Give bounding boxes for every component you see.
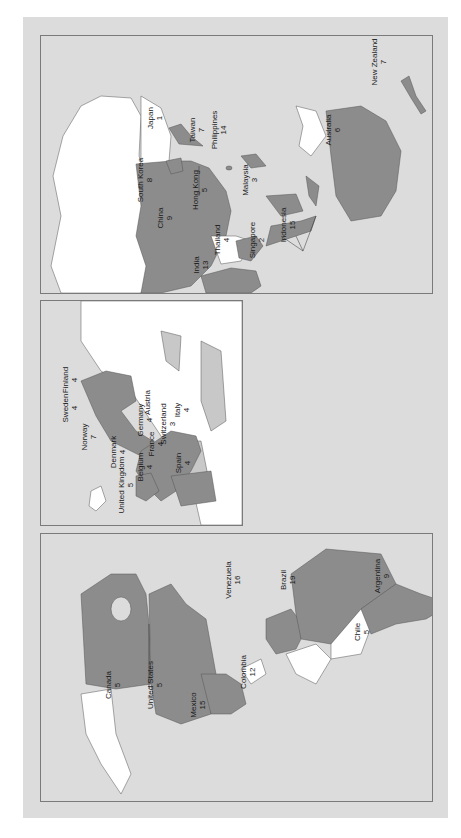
country-name: New Zealand [369,38,378,85]
country-label-canada: Canada5 [104,671,122,699]
country-name: Switzerland [158,403,167,444]
country-name: Venezuela [223,561,232,598]
country-count: 12 [248,655,257,689]
country-label-singapore: Singapore2 [248,222,266,258]
country-name: Canada [104,671,113,699]
country-label-taiwan: Taiwan7 [188,118,206,143]
country-label-brazil: Brazil19 [279,570,297,590]
country-label-united-kingdom: United Kingdom5 [117,457,135,514]
country-count: 15 [197,692,206,717]
country-name: Spain [174,453,183,473]
country-count: 1 [155,107,164,129]
country-count: 4 [70,367,79,393]
country-count: 13 [200,256,209,273]
country-count: 7 [378,38,387,85]
country-name: Finland [61,367,70,393]
country-count: 4 [145,453,154,482]
country-count: 4 [182,403,191,418]
country-count: 4 [183,453,192,473]
country-count: 9 [382,559,391,593]
country-count: 9 [165,208,174,229]
country-label-indonesia: Indonesia15 [279,208,297,243]
country-name: Japan [146,107,155,129]
country-count: 5 [126,457,135,514]
country-label-sweden: Sweden4 [61,394,79,423]
country-name: Philippines [210,111,219,150]
country-name: Colombia [239,655,248,689]
country-count: 5 [362,623,371,641]
country-label-hong-kong: Hong Kong5 [191,170,209,210]
country-count: 4 [222,225,231,256]
country-label-spain: Spain4 [174,453,192,473]
country-count: 3 [250,164,259,196]
country-label-australia: Australia6 [323,114,341,145]
country-name: Singapore [248,222,257,258]
country-count: 2 [257,222,266,258]
country-count: 6 [332,114,341,145]
country-label-india: India13 [191,256,209,273]
country-count: 5 [113,671,122,699]
country-name: Australia [323,114,332,145]
country-label-south-korea: South Korea8 [136,158,154,202]
country-name: United Kingdom [117,457,126,514]
country-label-italy: Italy4 [173,403,191,418]
country-count: 8 [145,158,154,202]
country-name: Taiwan [188,118,197,143]
country-name: Chile [353,623,362,641]
country-name: Indonesia [279,208,288,243]
country-name: United States [146,661,155,709]
country-count: 19 [288,570,297,590]
country-label-china: China9 [156,208,174,229]
country-label-mexico: Mexico15 [188,692,206,717]
country-name: India [191,256,200,273]
country-count: 5 [155,661,164,709]
country-label-colombia: Colombia12 [239,655,257,689]
country-name: Malaysia [241,164,250,196]
country-label-austria: Austria [142,390,151,415]
country-label-argentina: Argentina9 [373,559,391,593]
country-label-united-states: United States5 [146,661,164,709]
country-label-norway: Norway7 [79,423,97,450]
country-name: South Korea [136,158,145,202]
country-name: Thailand [213,225,222,256]
country-label-malaysia: Malaysia3 [241,164,259,196]
country-name: Belgium [136,453,145,482]
country-label-chile: Chile5 [353,623,371,641]
country-name: Sweden [61,394,70,423]
country-name: Austria [142,390,151,415]
country-label-philippines: Philippines14 [210,111,228,150]
country-label-thailand: Thailand4 [213,225,231,256]
country-label-belgium: Belgium4 [136,453,154,482]
country-label-finland: Finland4 [61,367,79,393]
country-name: China [156,208,165,229]
country-name: France [147,432,156,457]
country-count: 5 [200,170,209,210]
country-label-japan: Japan1 [146,107,164,129]
country-name: Italy [173,403,182,418]
country-name: Norway [79,423,88,450]
country-count: 7 [197,118,206,143]
country-label-venezuela: Venezuela16 [223,561,241,598]
country-count: 7 [88,423,97,450]
country-count: 4 [70,394,79,423]
country-name: Mexico [188,692,197,717]
country-count: 16 [232,561,241,598]
country-count: 15 [288,208,297,243]
country-name: Brazil [279,570,288,590]
country-name: Argentina [373,559,382,593]
country-label-new-zealand: New Zealand7 [369,38,387,85]
country-count: 14 [219,111,228,150]
country-name: Hong Kong [191,170,200,210]
